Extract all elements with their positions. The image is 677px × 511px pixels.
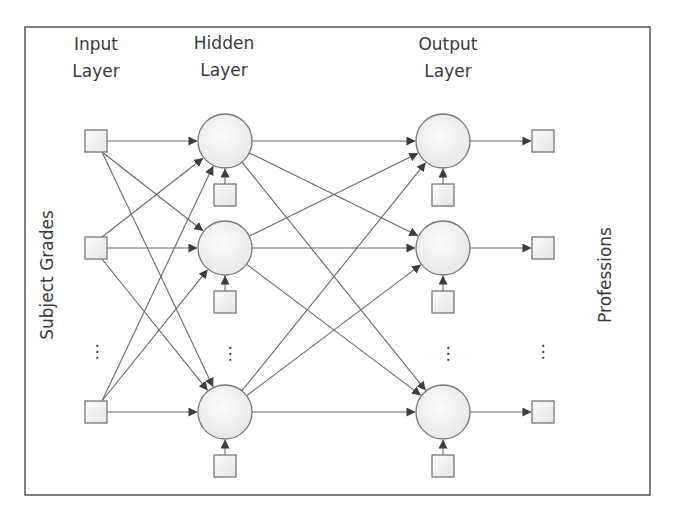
subject-grades-label: Subject Grades — [37, 210, 57, 340]
result-ellipsis: ⋮ — [535, 341, 552, 361]
output-ellipsis: ⋮ — [440, 343, 457, 363]
input-ellipsis: ⋮ — [89, 341, 106, 361]
hidden-ellipsis: ⋮ — [222, 343, 239, 363]
input-node-x2 — [85, 237, 107, 259]
output-node-ok — [416, 385, 470, 439]
output-bias-node-o2 — [432, 291, 454, 313]
input-node-x1 — [85, 130, 107, 152]
output-layer-label-line1: Output — [418, 34, 477, 54]
hidden-node-hm — [198, 385, 252, 439]
input-node-xn — [85, 401, 107, 423]
hidden-layer-label-line1: Hidden — [194, 33, 254, 53]
result-node-y2 — [532, 237, 554, 259]
edge-input-x2-to-hidden-hm — [102, 259, 207, 390]
diagram-frame — [25, 27, 650, 495]
hidden-layer-label-line2: Layer — [200, 60, 247, 80]
neural-network-diagram: Input Layer Hidden Layer Output Layer Su… — [0, 0, 677, 511]
professions-label: Professions — [595, 227, 615, 323]
edge-input-x2-to-hidden-h1 — [102, 158, 203, 237]
hidden-bias-node-hm — [214, 455, 236, 477]
result-node-yk — [532, 401, 554, 423]
hidden-node-h2 — [198, 221, 252, 275]
hidden-node-h1 — [198, 114, 252, 168]
output-bias-node-ok — [432, 455, 454, 477]
output-layer-label-line2: Layer — [424, 61, 471, 81]
network-nodes — [85, 114, 554, 477]
hidden-bias-node-h1 — [214, 184, 236, 206]
result-node-y1 — [532, 130, 554, 152]
edge-input-x1-to-hidden-hm — [102, 152, 213, 387]
hidden-bias-node-h2 — [214, 291, 236, 313]
output-bias-node-o1 — [432, 184, 454, 206]
output-node-o1 — [416, 114, 470, 168]
output-node-o2 — [416, 221, 470, 275]
input-layer-label-line1: Input — [74, 34, 118, 54]
input-layer-label-line2: Layer — [72, 61, 119, 81]
